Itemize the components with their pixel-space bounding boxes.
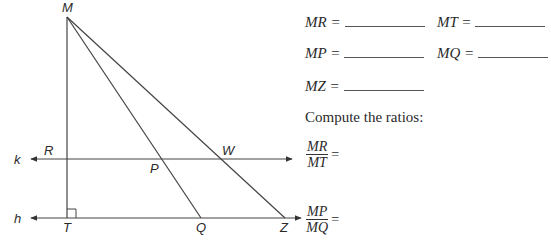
measure-mz-label: MZ =	[305, 78, 340, 94]
measure-mr: MR =	[305, 14, 425, 31]
measurement-panel: MR = MT = MP = MQ = MZ = Compute the rat…	[0, 0, 551, 252]
measure-mr-blank[interactable]	[345, 25, 425, 27]
fraction: MR MT	[306, 139, 328, 170]
ratio-numerator: MR	[306, 139, 328, 155]
ratio-denominator: MT	[307, 155, 326, 170]
ratio-numerator: MP	[306, 204, 328, 220]
measure-mp-blank[interactable]	[344, 56, 424, 58]
measure-mq: MQ =	[437, 45, 548, 62]
measure-mp-label: MP =	[305, 45, 340, 61]
measure-mr-label: MR =	[305, 14, 341, 30]
measure-mt: MT =	[437, 14, 545, 31]
measure-mp: MP =	[305, 45, 424, 62]
ratio-mr-mt: MR MT =	[306, 139, 339, 170]
measure-mz: MZ =	[305, 78, 424, 95]
equals-sign: =	[331, 147, 339, 163]
fraction: MP MQ	[306, 204, 328, 235]
measure-mt-label: MT =	[437, 14, 471, 30]
equals-sign: =	[331, 212, 339, 228]
measure-mq-label: MQ =	[437, 45, 474, 61]
measure-mz-blank[interactable]	[344, 89, 424, 91]
measure-mq-blank[interactable]	[478, 56, 548, 58]
ratio-mp-mq: MP MQ =	[306, 204, 339, 235]
measure-mt-blank[interactable]	[475, 25, 545, 27]
instruction-text: Compute the ratios:	[305, 109, 423, 126]
ratio-denominator: MQ	[306, 220, 328, 235]
